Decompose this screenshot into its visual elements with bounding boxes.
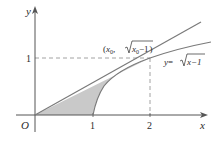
y-tick-label-1: 1: [26, 53, 31, 64]
x-tick-label-2: 2: [147, 120, 152, 131]
x-tick-label-1: 1: [90, 120, 95, 131]
diagram-canvas: y x O 1 2 1 (x0, x0−1) y= x−1: [0, 0, 224, 146]
x-axis-label: x: [199, 119, 205, 131]
tangent-line: [35, 22, 201, 115]
y-axis-label: y: [25, 5, 31, 17]
svg-text:x−1: x−1: [186, 57, 202, 67]
curve-equation-label: y= x−1: [163, 54, 205, 67]
svg-text:y=: y=: [163, 57, 173, 67]
shaded-region: [35, 58, 150, 115]
tangent-point-label: (x0, x0−1): [103, 41, 153, 55]
svg-text:x0−1): x0−1): [131, 44, 153, 55]
origin-label: O: [21, 119, 29, 131]
svg-text:(x0,: (x0,: [103, 44, 115, 55]
